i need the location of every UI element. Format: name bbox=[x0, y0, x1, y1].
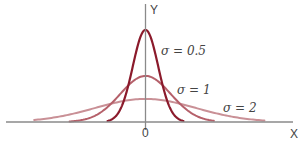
origin-tick-label: 0 bbox=[142, 126, 149, 140]
x-axis-label: X bbox=[290, 127, 298, 141]
sigma-0.5-label: σ = 0.5 bbox=[161, 44, 206, 58]
y-axis-label: Y bbox=[150, 3, 158, 17]
sigma-1-label: σ = 1 bbox=[177, 83, 211, 97]
sigma-2-label: σ = 2 bbox=[223, 101, 257, 115]
normal-distribution-chart: Y X 0 σ = 0.5 σ = 1 σ = 2 bbox=[0, 0, 306, 143]
